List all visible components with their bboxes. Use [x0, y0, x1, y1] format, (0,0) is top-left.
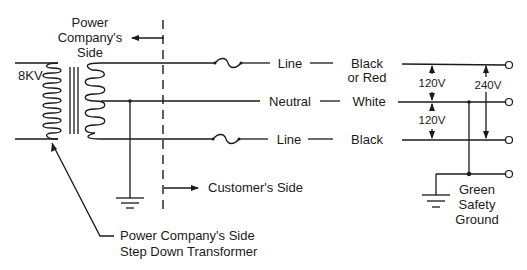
transformer-core-icon [70, 67, 78, 134]
primary-coil-icon [43, 63, 61, 139]
color-bottom-label: Black [351, 132, 383, 147]
voltage-240-label: 240V [475, 79, 502, 91]
voltage-120-bottom-label: 120V [419, 114, 446, 126]
color-top-label-2: or Red [347, 70, 386, 85]
line-bottom-wire [15, 135, 513, 144]
svg-text:Power: Power [72, 15, 110, 30]
safety-ground-icon [422, 195, 450, 207]
safety-ground-label: Green Safety Ground [455, 182, 498, 227]
power-company-side-label: Power Company's Side [58, 15, 123, 60]
transformer-callout-leader [51, 143, 114, 236]
customer-side-label: Customer's Side [208, 180, 303, 195]
line-top-wire [100, 59, 513, 69]
svg-text:Safety: Safety [459, 197, 496, 212]
svg-text:Company's: Company's [58, 30, 123, 45]
transformer-callout-label-2: Step Down Transformer [120, 244, 258, 259]
wiring-diagram: Power Company's Side 8KV Line Bla [0, 0, 527, 270]
primary-voltage-label: 8KV [18, 68, 43, 83]
utility-ground-icon [116, 101, 144, 208]
color-neutral-label: White [352, 94, 385, 109]
svg-text:Side: Side [77, 45, 103, 60]
voltage-120-top-label: 120V [419, 77, 446, 89]
line-bottom-label: Line [277, 132, 302, 147]
color-top-label: Black [351, 56, 383, 71]
transformer-callout-label: Power Company's Side [120, 228, 255, 243]
neutral-label: Neutral [269, 94, 311, 109]
svg-text:Ground: Ground [455, 212, 498, 227]
power-company-arrow [132, 38, 163, 39]
line-top-label: Line [278, 56, 303, 71]
svg-text:Green: Green [459, 182, 495, 197]
